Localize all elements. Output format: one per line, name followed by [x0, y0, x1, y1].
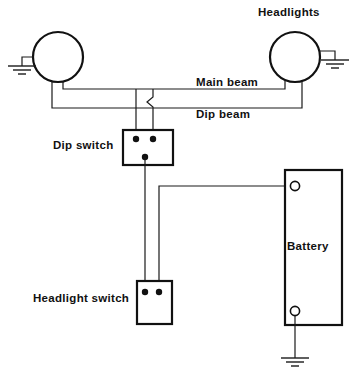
dip-switch-label: Dip switch: [53, 139, 114, 151]
right-headlight-ground-icon: [321, 60, 349, 68]
dip-switch-terminal-main: [133, 136, 139, 142]
battery-label: Battery: [287, 240, 329, 252]
main-beam-label: Main beam: [196, 76, 258, 88]
headlight-switch-label: Headlight switch: [33, 292, 129, 304]
dip-switch-box[interactable]: [123, 130, 173, 165]
left-headlight-lamp: [33, 32, 83, 82]
dip-switch-terminal-dip: [150, 136, 156, 142]
headlight-switch-terminal-out: [142, 289, 148, 295]
dip-beam-to-dip-switch-wire: [147, 89, 153, 130]
dip-beam-label: Dip beam: [196, 108, 250, 120]
headlight-switch-box[interactable]: [137, 281, 172, 324]
battery-ground-icon: [281, 358, 309, 366]
battery-positive-terminal: [290, 181, 299, 190]
dip-beam-wire: [52, 81, 302, 108]
right-headlight-lamp: [270, 32, 320, 82]
headlights-label: Headlights: [258, 6, 320, 18]
wiring-diagram: Headlights Main beam Dip beam Dip switch…: [0, 0, 361, 375]
right-headlight-ground-lead: [320, 51, 335, 60]
wiring-schematic-canvas: [0, 0, 361, 375]
headlight-switch-to-battery-wire: [159, 186, 285, 281]
left-headlight-ground-icon: [8, 66, 36, 74]
battery-negative-terminal: [290, 306, 299, 315]
left-headlight-ground-lead: [22, 57, 33, 66]
headlight-switch-terminal-in: [156, 289, 162, 295]
